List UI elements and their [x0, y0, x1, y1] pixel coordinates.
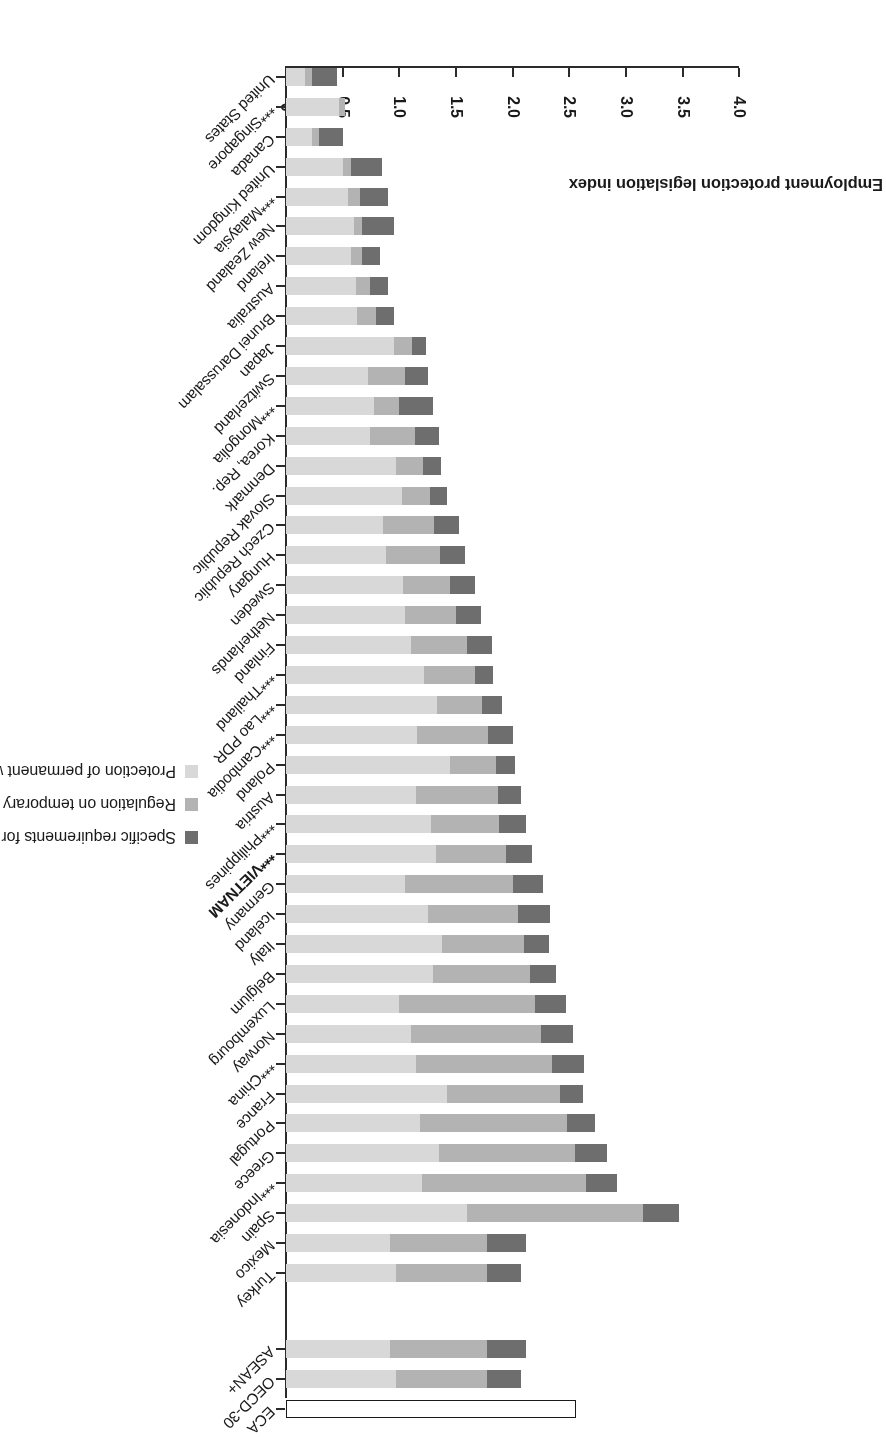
bar-row: [0, 68, 758, 86]
bar-segment-temporary-employment: [439, 1144, 575, 1162]
bar-row: [0, 666, 758, 684]
bar-segment-collective-dismissal: [430, 487, 447, 505]
bar-segment-temporary-employment: [396, 1264, 487, 1282]
bar-segment-permanent-protection: [286, 1340, 390, 1358]
legend-swatch-collective-dismissal: [185, 831, 198, 844]
bar-segment-permanent-protection: [286, 935, 442, 953]
bar-segment-collective-dismissal: [450, 576, 475, 594]
bar-segment-permanent-protection: [286, 98, 339, 116]
bar-segment-temporary-employment: [356, 277, 370, 295]
bar-segment-temporary-employment: [411, 636, 468, 654]
bar-segment-collective-dismissal: [541, 1025, 573, 1043]
bar-segment-collective-dismissal: [518, 905, 550, 923]
bar-row: [0, 1204, 758, 1222]
bar-segment-permanent-protection: [286, 786, 416, 804]
bar-segment-permanent-protection: [286, 68, 305, 86]
bar-segment-permanent-protection: [286, 1264, 396, 1282]
bar-segment-collective-dismissal: [456, 606, 481, 624]
bar-segment-collective-dismissal: [552, 1055, 584, 1073]
bar-segment-collective-dismissal: [560, 1085, 583, 1103]
bar-segment-temporary-employment: [433, 965, 529, 983]
bar-segment-collective-dismissal: [312, 68, 337, 86]
bar-segment-temporary-employment: [420, 1115, 567, 1133]
bar-segment-collective-dismissal: [487, 1370, 521, 1388]
bar-segment-temporary-employment: [417, 726, 487, 744]
bar-row: [0, 1400, 758, 1418]
bar-segment-permanent-protection: [286, 188, 348, 206]
bar-segment-temporary-employment: [396, 1370, 487, 1388]
bar-segment-temporary-employment: [422, 1174, 586, 1192]
bar-segment-permanent-protection: [286, 487, 402, 505]
bar-segment-permanent-protection: [286, 1174, 422, 1192]
bar-segment-temporary-employment: [396, 457, 423, 475]
bar-segment-permanent-protection: [286, 606, 405, 624]
bar-segment-permanent-protection: [286, 965, 433, 983]
bar-segment-collective-dismissal: [524, 935, 549, 953]
bar-row: [0, 98, 758, 116]
bar-row: [0, 845, 758, 863]
bar-segment-collective-dismissal: [399, 397, 433, 415]
bar-segment-temporary-employment: [394, 337, 412, 355]
bar-row: [0, 517, 758, 535]
bar-segment-permanent-protection: [286, 995, 399, 1013]
bar-row: [0, 1340, 758, 1358]
bar-segment-collective-dismissal: [423, 457, 441, 475]
bar-segment-collective-dismissal: [498, 786, 521, 804]
bar-row: [0, 576, 758, 594]
bar-segment-permanent-protection: [286, 1085, 447, 1103]
bar-segment-permanent-protection: [286, 397, 374, 415]
bar-segment-temporary-employment: [348, 188, 359, 206]
bar-segment-permanent-protection: [286, 277, 356, 295]
bar-row: [0, 427, 758, 445]
bar-row: [0, 965, 758, 983]
bar-segment-permanent-protection: [286, 1025, 411, 1043]
bar-segment-permanent-protection: [286, 636, 411, 654]
bar-row: [0, 397, 758, 415]
bar-segment-permanent-protection: [286, 1204, 467, 1222]
legend-item-collective-dismissal: Specific requirements for collective dis…: [0, 828, 198, 846]
bar-segment-collective-dismissal: [434, 517, 459, 535]
bar-segment-permanent-protection: [286, 1370, 396, 1388]
bar-segment-permanent-protection: [286, 1115, 420, 1133]
bar-segment-temporary-employment: [368, 367, 405, 385]
bar-row: [0, 1025, 758, 1043]
bar-row: [0, 606, 758, 624]
bar-segment-collective-dismissal: [488, 726, 513, 744]
bar-row: [0, 1055, 758, 1073]
bar-segment-collective-dismissal: [513, 875, 544, 893]
bar-segment-permanent-protection: [286, 457, 396, 475]
bar-segment-permanent-protection: [286, 427, 370, 445]
bar-segment-permanent-protection: [286, 128, 312, 146]
bar-segment-temporary-employment: [339, 98, 345, 116]
bar-segment-temporary-employment: [390, 1340, 486, 1358]
bar-segment-temporary-employment: [411, 1025, 541, 1043]
bar-segment-temporary-employment: [402, 487, 430, 505]
bar-segment-collective-dismissal: [506, 845, 532, 863]
bar-row: [0, 636, 758, 654]
bar-segment-collective-dismissal: [567, 1115, 595, 1133]
bar-row: [0, 546, 758, 564]
bar-segment-collective-dismissal: [586, 1174, 617, 1192]
bar-row: [0, 188, 758, 206]
bar-segment-temporary-employment: [405, 875, 513, 893]
bar-segment-temporary-employment: [386, 546, 440, 564]
bar-segment-collective-dismissal: [376, 307, 394, 325]
bar-segment-temporary-employment: [437, 696, 482, 714]
bar-segment-temporary-employment: [431, 816, 499, 834]
bar-row: [0, 487, 758, 505]
bar-segment-permanent-protection: [286, 905, 428, 923]
bar-row: [0, 128, 758, 146]
bar-segment-temporary-employment: [305, 68, 312, 86]
bar-row: [0, 995, 758, 1013]
bar-segment-temporary-employment: [390, 1234, 486, 1252]
bar-row: [0, 875, 758, 893]
legend-label-collective-dismissal: Specific requirements for collective dis…: [0, 829, 176, 846]
bar-segment-collective-dismissal: [482, 696, 502, 714]
bar-segment-permanent-protection: [286, 1234, 390, 1252]
bar-segment-temporary-employment: [403, 576, 451, 594]
bar-row: [0, 1174, 758, 1192]
bar-segment-collective-dismissal: [405, 367, 428, 385]
bar-row: [0, 726, 758, 744]
